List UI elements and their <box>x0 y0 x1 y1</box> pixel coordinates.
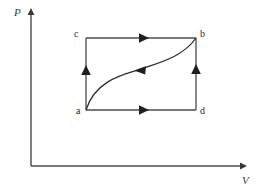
direction-arrowheads <box>81 33 201 115</box>
pressure-axis-label: P <box>14 7 21 18</box>
cycle-rectangle <box>86 38 196 110</box>
volume-axis-label: V <box>242 175 249 186</box>
axes-group <box>28 8 247 169</box>
pv-diagram <box>0 0 259 194</box>
point-label-c: c <box>74 29 78 39</box>
curve-arrow-left-icon <box>134 66 146 74</box>
bottom-edge-arrow-right-icon <box>139 105 149 115</box>
curve-a-to-b <box>86 38 196 110</box>
point-label-d: d <box>200 106 205 116</box>
isotherm-curve-group <box>86 38 196 110</box>
point-label-b: b <box>200 29 205 39</box>
volume-axis-arrowhead <box>240 163 247 170</box>
top-edge-arrow-right-icon <box>139 33 149 43</box>
left-edge-arrow-up-icon <box>81 65 91 75</box>
pressure-axis-arrowhead <box>28 8 35 15</box>
point-label-a: a <box>76 106 80 116</box>
right-edge-arrow-up-icon <box>191 64 201 74</box>
